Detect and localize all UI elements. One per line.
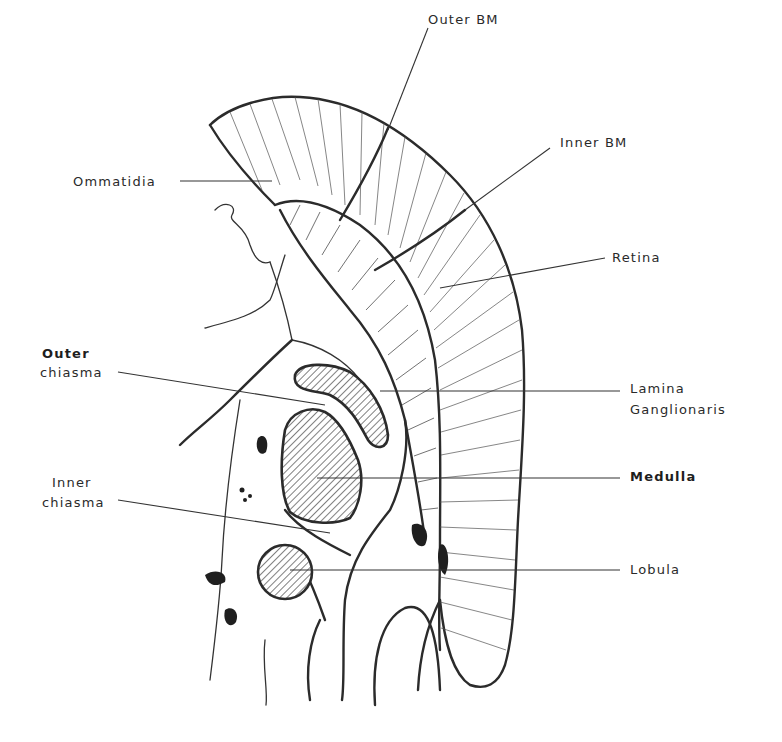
label-retina: Retina xyxy=(612,248,661,267)
label-outer-chiasma-line2: chiasma xyxy=(40,363,103,382)
label-inner-chiasma-line2: chiasma xyxy=(42,493,105,512)
label-inner-chiasma-line1: Inner xyxy=(52,473,92,492)
lobula-region xyxy=(258,545,312,599)
label-medulla: Medulla xyxy=(630,467,696,486)
label-outer-bm: Outer BM xyxy=(428,10,499,29)
label-lobula: Lobula xyxy=(630,560,680,579)
leader-lines xyxy=(118,28,620,570)
label-lamina-line1: Lamina xyxy=(630,379,685,398)
label-lamina-line2: Ganglionaris xyxy=(630,400,726,419)
optic-lobe-diagram xyxy=(0,0,782,742)
label-outer-chiasma-line1: Outer xyxy=(42,344,90,363)
label-inner-bm: Inner BM xyxy=(560,133,628,152)
label-ommatidia: Ommatidia xyxy=(73,172,156,191)
medulla-region xyxy=(282,409,362,522)
